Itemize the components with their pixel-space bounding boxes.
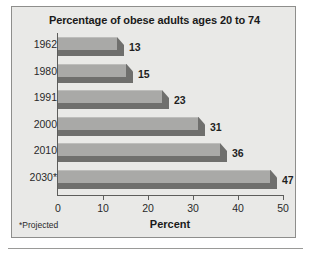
bar <box>58 37 124 56</box>
bar-end-cap <box>220 143 227 162</box>
bar-value-label: 23 <box>174 94 186 106</box>
category-label: 2030* <box>15 171 57 183</box>
category-label: 1980 <box>15 65 57 77</box>
bar-shadow-face <box>58 103 169 109</box>
chart-panel: Percentage of obese adults ages 20 to 74… <box>11 6 296 238</box>
x-tick-label: 0 <box>46 202 70 214</box>
category-label: 2000 <box>15 118 57 130</box>
bar <box>58 170 277 189</box>
chart-figure: Percentage of obese adults ages 20 to 74… <box>0 0 311 257</box>
bar <box>58 64 133 83</box>
category-label: 1962 <box>15 38 57 50</box>
bar-value-label: 31 <box>210 121 222 133</box>
x-tick-label: 20 <box>136 202 160 214</box>
bar-value-label: 36 <box>232 147 244 159</box>
footnote: *Projected <box>19 220 58 230</box>
x-tick-mark <box>148 195 149 200</box>
bar <box>58 143 227 162</box>
bar <box>58 90 169 109</box>
bar <box>58 117 205 136</box>
bar-shadow-face <box>58 77 133 83</box>
category-label: 2010 <box>15 144 57 156</box>
x-tick-label: 30 <box>181 202 205 214</box>
bar-end-cap <box>117 37 124 56</box>
x-tick-mark <box>193 195 194 200</box>
category-label: 1991 <box>15 91 57 103</box>
x-tick-label: 50 <box>271 202 295 214</box>
x-tick-label: 10 <box>91 202 115 214</box>
bar-shadow-face <box>58 130 205 136</box>
bar-end-cap <box>162 90 169 109</box>
bar-end-cap <box>198 117 205 136</box>
bar-shadow-face <box>58 156 227 162</box>
bar-top-face <box>58 170 270 183</box>
bar-end-cap <box>126 64 133 83</box>
bottom-divider <box>8 248 303 249</box>
bar-shadow-face <box>58 50 124 56</box>
x-tick-mark <box>103 195 104 200</box>
bar-top-face <box>58 117 198 130</box>
bar-value-label: 13 <box>129 41 141 53</box>
plot-area: 196219801991200020102030* 131523313647 0… <box>12 7 297 239</box>
bar-end-cap <box>270 170 277 189</box>
bar-value-label: 15 <box>138 68 150 80</box>
bar-top-face <box>58 143 220 156</box>
x-axis-line <box>57 195 283 196</box>
bar-value-label: 47 <box>282 174 294 186</box>
bar-shadow-face <box>58 183 277 189</box>
x-tick-mark <box>283 195 284 200</box>
bar-top-face <box>58 64 126 77</box>
bar-top-face <box>58 90 162 103</box>
x-tick-mark <box>238 195 239 200</box>
x-tick-label: 40 <box>226 202 250 214</box>
bar-top-face <box>58 37 117 50</box>
x-axis-title: Percent <box>57 218 283 230</box>
